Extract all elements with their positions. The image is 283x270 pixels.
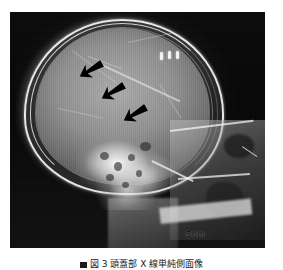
metallic-clip-marker bbox=[168, 51, 171, 59]
caption-bullet-marker bbox=[80, 262, 87, 268]
sella-turcica-lucency bbox=[140, 142, 151, 151]
figure-caption: 図 3 頭蓋部 X 線単純側面像 bbox=[0, 259, 283, 270]
orbit-lucency bbox=[224, 134, 254, 158]
mastoid-air-cell bbox=[136, 170, 142, 177]
mastoid-air-cell bbox=[100, 152, 109, 160]
mastoid-air-cell bbox=[128, 154, 135, 161]
metallic-clip-marker bbox=[160, 52, 163, 60]
scale-label: 5cm bbox=[186, 230, 206, 239]
mastoid-air-cell bbox=[106, 174, 114, 181]
mastoid-air-cell bbox=[122, 182, 129, 188]
caption-text: 図 3 頭蓋部 X 線単純側面像 bbox=[90, 259, 203, 269]
skull-radiograph-image: 5cm bbox=[10, 12, 265, 248]
metallic-clip-marker bbox=[176, 51, 179, 59]
mastoid-air-cell bbox=[114, 162, 122, 171]
